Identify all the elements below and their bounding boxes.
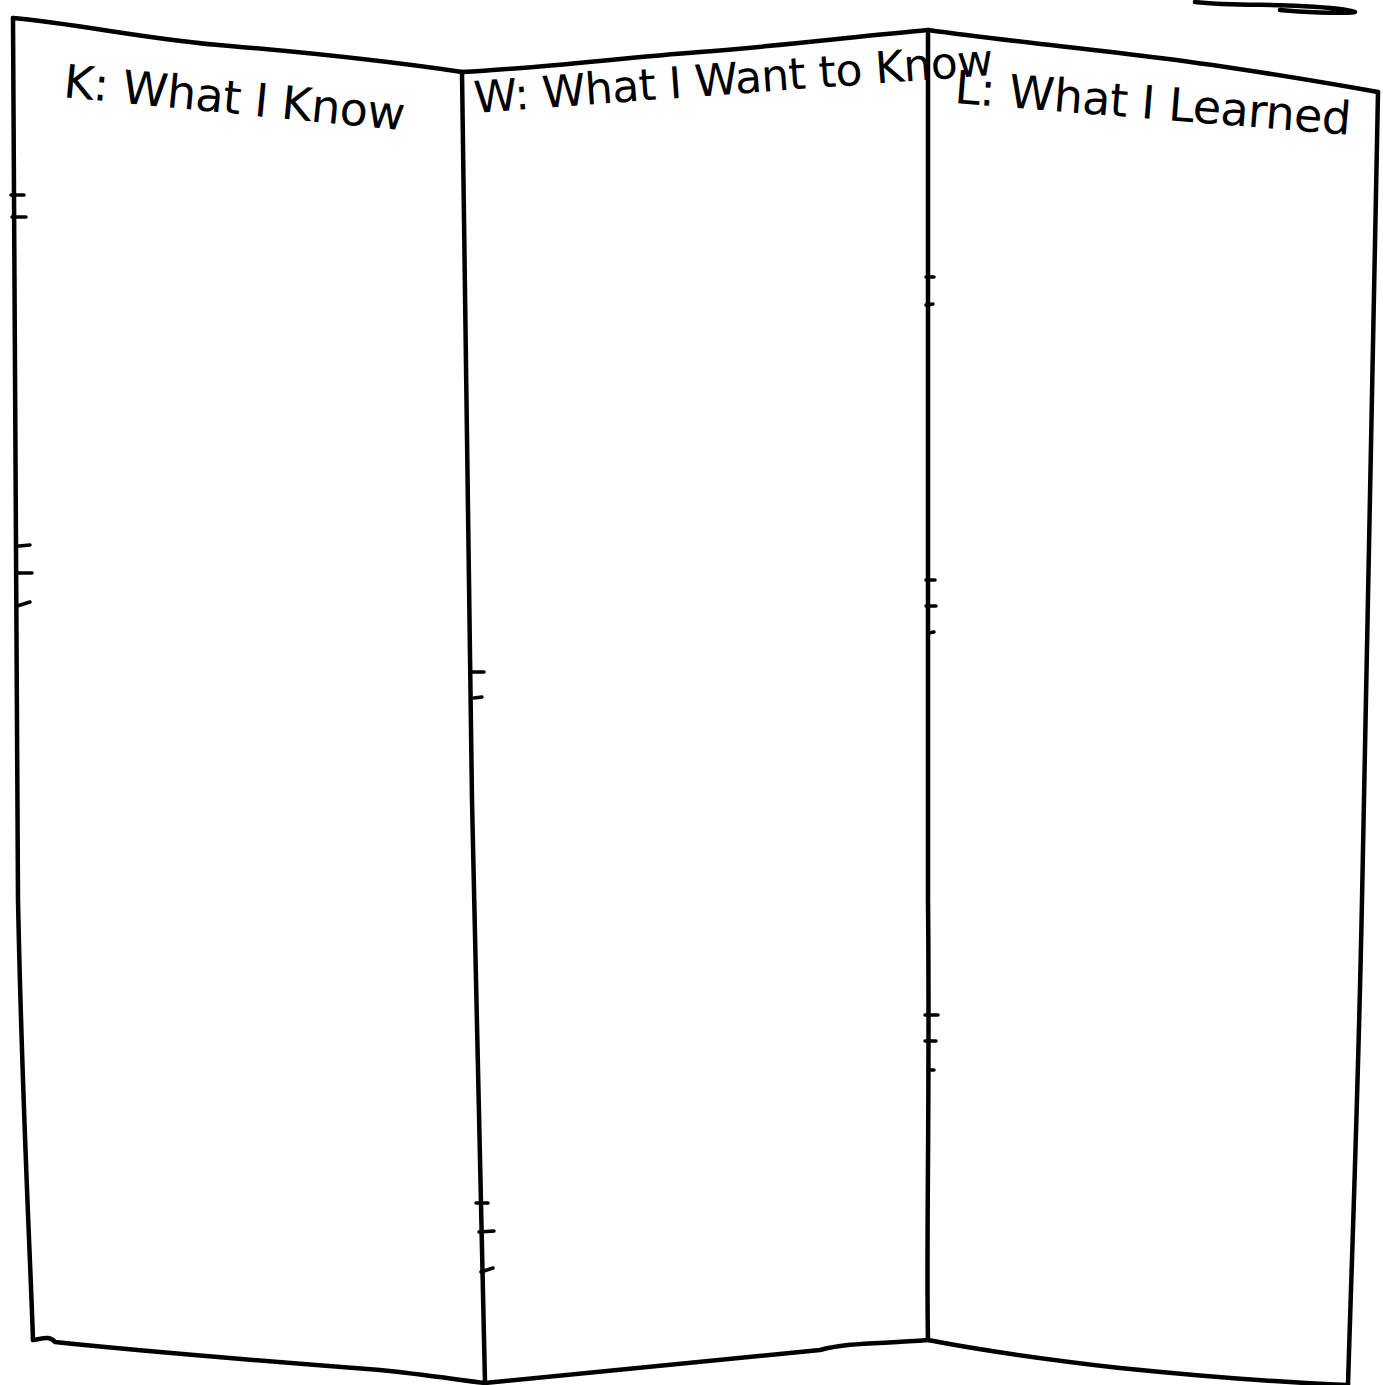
kwl-board: K: What I Know W: What I Want to Know L:… bbox=[0, 0, 1383, 1385]
panel-k-content-area[interactable] bbox=[40, 160, 450, 1320]
panel-l-content-area[interactable] bbox=[945, 180, 1330, 1320]
panel-w-content-area[interactable] bbox=[490, 170, 910, 1320]
corner-scribble bbox=[1195, 2, 1355, 13]
